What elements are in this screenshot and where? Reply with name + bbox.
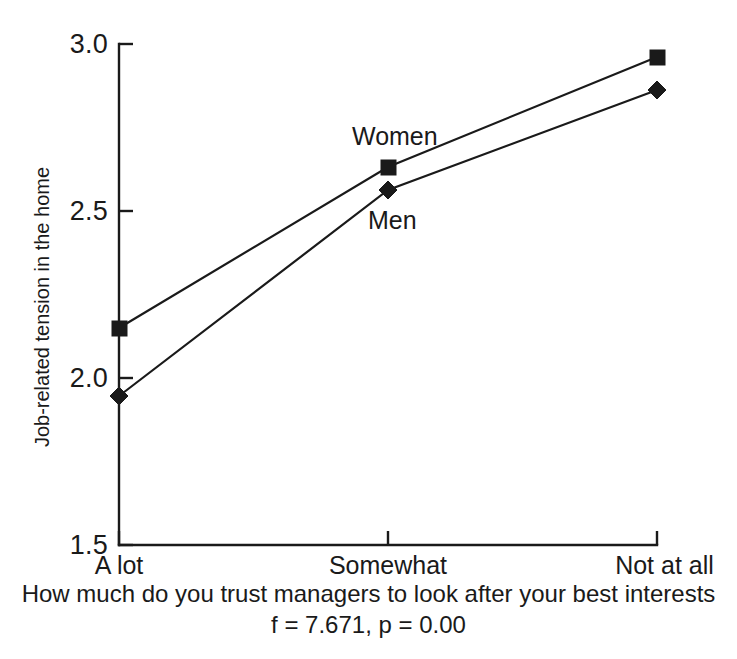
series-label-men: Men: [368, 206, 417, 235]
data-point-women-a-lot: [112, 321, 127, 336]
y-axis-title: Job-related tension in the home: [31, 167, 54, 447]
chart-figure: 3.0 2.5 2.0 1.5 Job-related tension in t…: [0, 0, 737, 659]
x-tick-label-somewhat: Somewhat: [303, 551, 473, 580]
y-tick-label-2-5: 2.5: [54, 196, 108, 227]
x-tick-label-not-at-all: Not at all: [592, 551, 737, 580]
data-point-men-somewhat: [379, 181, 397, 199]
y-tick-label-3-0: 3.0: [54, 29, 108, 60]
y-tick-label-2-0: 2.0: [54, 363, 108, 394]
caption-question: How much do you trust managers to look a…: [0, 578, 737, 609]
series-label-women: Women: [352, 122, 438, 151]
caption-statistics: f = 7.671, p = 0.00: [0, 609, 737, 640]
data-point-women-not-at-all: [650, 50, 665, 65]
data-point-men-not-at-all: [648, 81, 666, 99]
x-tick-label-a-lot: A lot: [59, 551, 179, 580]
data-point-men-a-lot: [110, 387, 128, 405]
data-point-women-somewhat: [381, 160, 396, 175]
chart-caption: How much do you trust managers to look a…: [0, 578, 737, 640]
